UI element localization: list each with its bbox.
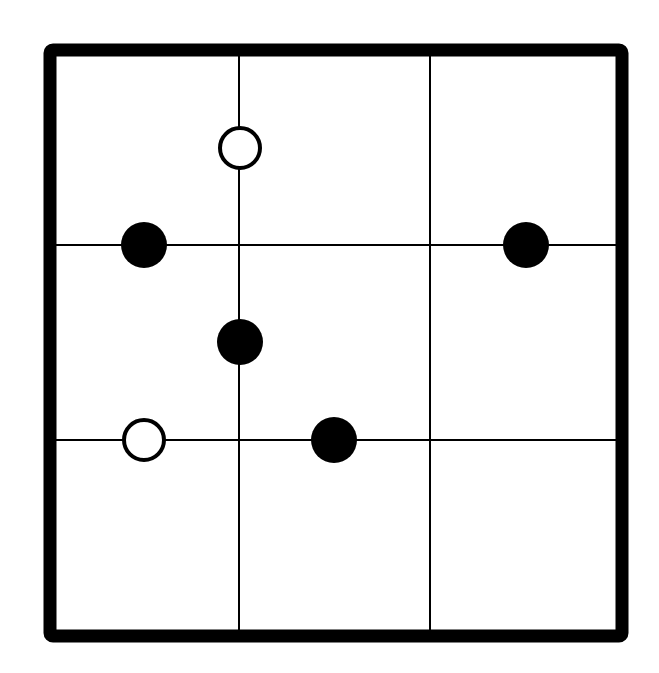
board-frame xyxy=(50,50,622,636)
white-circle-icon xyxy=(124,420,164,460)
black-circle-icon xyxy=(503,222,549,268)
white-circle-icon xyxy=(220,128,260,168)
grid-lines xyxy=(50,50,622,636)
black-circle-icon xyxy=(217,319,263,365)
black-circle-icon xyxy=(311,417,357,463)
puzzle-board xyxy=(0,0,659,673)
circles xyxy=(121,128,549,463)
black-circle-icon xyxy=(121,222,167,268)
